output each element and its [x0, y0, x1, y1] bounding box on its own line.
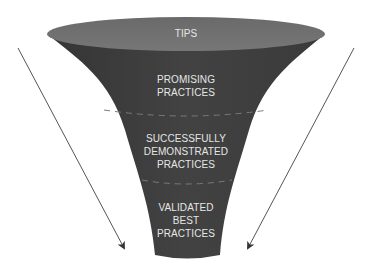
label-line: BEST: [136, 214, 236, 227]
label-line: PRACTICES: [126, 86, 246, 99]
label-line: SUCCESSFULLY: [126, 132, 246, 145]
stage-promising-label: PROMISING PRACTICES: [126, 73, 246, 99]
label-line: PRACTICES: [126, 158, 246, 171]
stage-successfully-demonstrated-label: SUCCESSFULLY DEMONSTRATED PRACTICES: [126, 132, 246, 171]
label-line: VALIDATED: [136, 201, 236, 214]
label-line: TIPS: [136, 27, 236, 40]
stage-tips-label: TIPS: [136, 27, 236, 40]
label-line: PRACTICES: [136, 227, 236, 240]
funnel-diagram: TIPS PROMISING PRACTICES SUCCESSFULLY DE…: [0, 0, 366, 274]
label-line: DEMONSTRATED: [126, 145, 246, 158]
label-line: PROMISING: [126, 73, 246, 86]
stage-validated-best-label: VALIDATED BEST PRACTICES: [136, 201, 236, 240]
